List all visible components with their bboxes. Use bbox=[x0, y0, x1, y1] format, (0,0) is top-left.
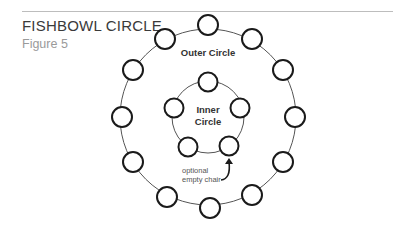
inner-chair bbox=[199, 73, 218, 92]
inner-circle-label-line1: Inner bbox=[196, 104, 220, 115]
outer-chair bbox=[273, 60, 293, 80]
outer-circle-label: Outer Circle bbox=[181, 47, 235, 58]
inner-chair bbox=[165, 99, 184, 118]
outer-chair bbox=[155, 29, 175, 49]
outer-chair bbox=[123, 60, 143, 80]
inner-chair bbox=[231, 99, 250, 118]
outer-chair bbox=[157, 187, 177, 207]
outer-chair bbox=[285, 107, 305, 127]
arrow-icon bbox=[221, 162, 229, 180]
fishbowl-diagram: Outer Circle Inner Circle optional empty… bbox=[0, 0, 397, 230]
inner-chair bbox=[220, 137, 239, 156]
outer-chair bbox=[200, 198, 220, 218]
annotation-line1: optional bbox=[182, 166, 209, 175]
outer-chair bbox=[112, 107, 132, 127]
outer-chair bbox=[242, 185, 262, 205]
outer-chair bbox=[273, 152, 293, 172]
outer-chair bbox=[242, 29, 262, 49]
inner-chair bbox=[179, 138, 198, 157]
outer-chair bbox=[123, 152, 143, 172]
annotation-line2: empty chair bbox=[182, 175, 221, 184]
arrowhead-icon bbox=[225, 158, 233, 164]
inner-circle-label-line2: Circle bbox=[195, 116, 221, 127]
outer-chair bbox=[198, 15, 218, 35]
